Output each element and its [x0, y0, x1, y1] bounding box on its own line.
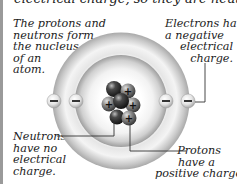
svg-text:+: + — [125, 113, 133, 124]
electron — [159, 94, 173, 108]
svg-text:+: + — [129, 100, 137, 111]
electron — [181, 94, 195, 108]
atom-diagram: + + + + — [0, 0, 237, 184]
svg-text:+: + — [105, 99, 113, 110]
electron — [47, 94, 61, 108]
proton: + — [122, 111, 137, 126]
neutron — [113, 93, 129, 109]
electron — [69, 94, 83, 108]
leader-line-electrons — [195, 63, 205, 102]
